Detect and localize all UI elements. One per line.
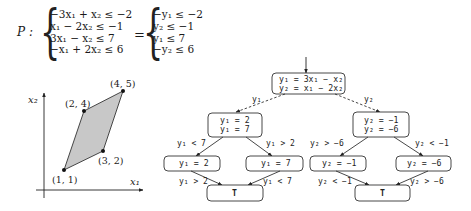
edge-label-y2-gt-neg6: y₂ > −6 — [310, 139, 344, 148]
edge-label-y2-lt-neg1: y₂ < −1 — [415, 139, 449, 148]
vertex-dot — [82, 109, 86, 113]
edge-label-b-t1: y₁ < 7 — [263, 177, 292, 186]
left-mid-line-2: y₁ = 7 — [220, 124, 250, 134]
edge-label-c-t2: y₂ < −1 — [318, 177, 352, 186]
edge-label-y1-gt-2: y₁ > 2 — [266, 139, 295, 148]
polytope-plot: x₁ x₂ (1, 1) (3, 2) (4, 5) (2, 4) — [28, 78, 143, 198]
root-line-2: y₂ = x₁ − 2x₂ — [279, 83, 343, 93]
x-axis-label: x₁ — [130, 176, 140, 187]
edge-label-d-t2: y₂ > −6 — [410, 177, 444, 186]
vertex-dot — [121, 89, 125, 93]
vertex-label-1-1: (1, 1) — [52, 174, 78, 185]
terminal-1-text: T — [232, 188, 237, 198]
terminal-2-text: T — [380, 188, 385, 198]
right-mid-line-2: y₂ = −6 — [364, 124, 399, 134]
edge-right-mid-to-leaf-c — [340, 137, 368, 156]
vertex-label-2-4: (2, 4) — [65, 98, 91, 109]
leaf-d-text: y₂ = −6 — [407, 158, 442, 168]
vertex-label-3-2: (3, 2) — [98, 155, 124, 166]
edge-label-a-t1: y₁ > 2 — [179, 177, 208, 186]
edge-label-y1-lt-7: y₁ < 7 — [177, 139, 206, 148]
branch-label-right: y₂ — [364, 95, 374, 104]
vertex-dot — [101, 149, 105, 153]
leaf-a-text: y₁ = 2 — [179, 158, 209, 168]
vertex-label-4-5: (4, 5) — [110, 78, 136, 89]
leaf-b-text: y₁ = 7 — [261, 158, 291, 168]
diagram-canvas: x₁ x₂ (1, 1) (3, 2) (4, 5) (2, 4) y₁ = 3… — [0, 0, 471, 211]
branch-label-left: y₁ — [252, 95, 262, 104]
decision-tree: y₁ = 3x₁ − x₂ y₂ = x₁ − 2x₂ y₁ y₂ y₁ = 2… — [164, 57, 451, 201]
y-axis-label: x₂ — [28, 94, 38, 105]
leaf-c-text: y₂ = −1 — [322, 158, 357, 168]
vertex-dot — [62, 168, 66, 172]
